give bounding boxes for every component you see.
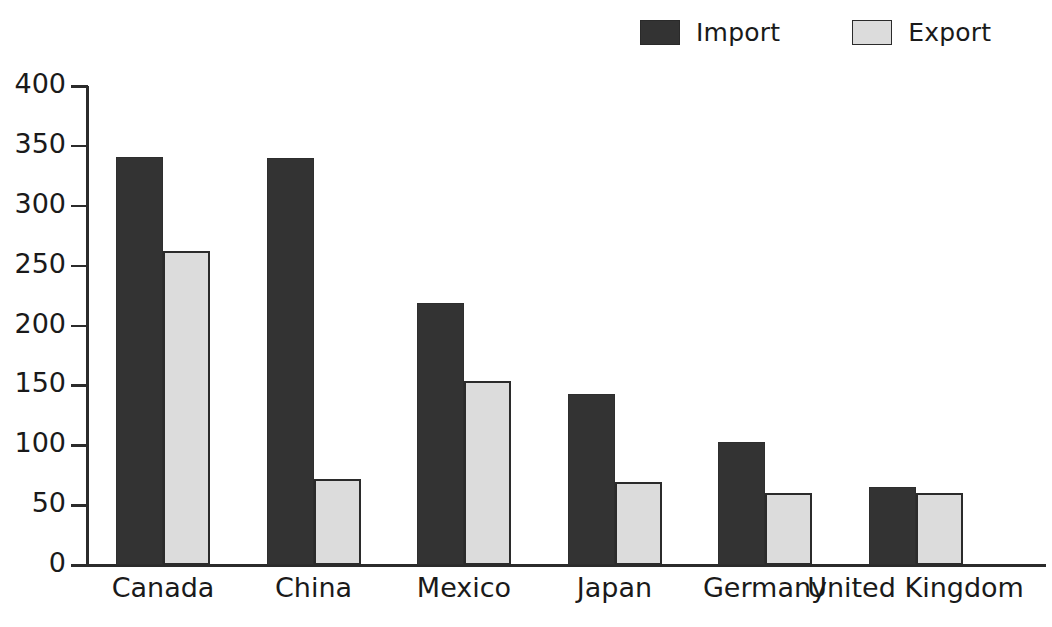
bar-united-kingdom-export [916, 493, 963, 565]
y-axis-tick-mark [71, 85, 88, 88]
y-axis-tick-mark [71, 205, 88, 208]
plot-area: 050100150200250300350400 CanadaChinaMexi… [0, 0, 1052, 627]
y-axis-tick-label: 250 [14, 248, 66, 279]
x-axis-label-japan: Japan [577, 572, 652, 603]
x-axis-label-canada: Canada [112, 572, 215, 603]
x-axis-label-united-kingdom: United Kingdom [807, 572, 1024, 603]
y-axis-tick-mark [71, 444, 88, 447]
y-axis-tick-label: 300 [14, 188, 66, 219]
bar-germany-export [765, 493, 812, 565]
bar-mexico-import [417, 303, 464, 565]
y-axis-tick-label: 150 [14, 367, 66, 398]
bar-japan-import [568, 394, 615, 565]
y-axis-tick-mark [71, 504, 88, 507]
bar-canada-export [163, 251, 210, 565]
y-axis-tick-label: 350 [14, 128, 66, 159]
bar-germany-import [718, 442, 765, 565]
bar-united-kingdom-import [869, 487, 916, 565]
y-axis-tick-mark [71, 564, 88, 567]
x-axis-label-mexico: Mexico [417, 572, 511, 603]
bar-japan-export [615, 482, 662, 565]
y-axis-tick-label: 50 [32, 487, 66, 518]
x-axis-label-china: China [275, 572, 352, 603]
bar-mexico-export [464, 381, 511, 565]
y-axis-tick-label: 400 [14, 68, 66, 99]
bar-china-import [267, 158, 314, 565]
bar-chart: Import Export 050100150200250300350400 C… [0, 0, 1052, 627]
y-axis-tick-label: 100 [14, 427, 66, 458]
y-axis-tick-label: 200 [14, 308, 66, 339]
y-axis-tick-label: 0 [49, 547, 66, 578]
y-axis-tick-mark [71, 265, 88, 268]
y-axis-tick-mark [71, 145, 88, 148]
bar-china-export [314, 479, 361, 565]
y-axis-tick-mark [71, 384, 88, 387]
y-axis-tick-mark [71, 325, 88, 328]
bar-canada-import [116, 157, 163, 565]
